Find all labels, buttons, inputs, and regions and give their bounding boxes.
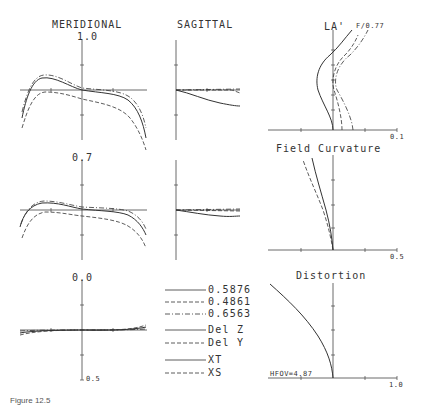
hfov-label: HFOV=4.87 (270, 370, 312, 378)
scale-label: 0.5 (86, 375, 100, 383)
meridional-title: MERIDIONAL (52, 19, 122, 30)
field-curvature-plot (268, 155, 397, 252)
field-curvature-title: Field Curvature (276, 143, 381, 154)
legend-label-xt: XT (208, 354, 222, 365)
curve-0.4861 (22, 92, 146, 150)
dist-x-tick: 1.0 (389, 381, 403, 389)
legend-label-0-5876: 0.5876 (208, 284, 251, 295)
distortion-title: Distortion (296, 270, 366, 281)
meridional-plot-1-0 (20, 40, 147, 150)
la-fnumber: F/0.77 (356, 22, 384, 30)
sagittal-plot-1-0 (174, 40, 240, 140)
meridional-plot-0-7 (20, 160, 147, 260)
sagittal-plot-0-7 (174, 160, 240, 260)
field-label-0-7: 0.7 (72, 152, 93, 163)
sagittal-title: SAGITTAL (177, 19, 233, 30)
distortion-plot (268, 283, 397, 380)
field-label-0-0: 0.0 (72, 272, 93, 283)
curve-0.5876 (22, 78, 146, 138)
field-label-1-0: 1.0 (77, 31, 98, 42)
fc-x-tick: 0.5 (390, 253, 404, 261)
legend-label-0-4861: 0.4861 (208, 296, 251, 307)
la-title: LA' (324, 21, 345, 32)
la-x-tick: 0.1 (390, 133, 404, 141)
legend-label-0-6563: 0.6563 (208, 308, 251, 319)
longitudinal-aberration-plot (268, 30, 397, 132)
legend-swatches (165, 290, 206, 373)
curve-0.6563 (22, 75, 146, 128)
figure-caption: Figure 12.5 (10, 396, 50, 405)
legend-label-del-z: Del Z (208, 324, 244, 335)
meridional-plot-0-0 (20, 280, 147, 380)
legend-label-del-y: Del Y (208, 337, 244, 348)
legend-label-xs: XS (208, 367, 222, 378)
